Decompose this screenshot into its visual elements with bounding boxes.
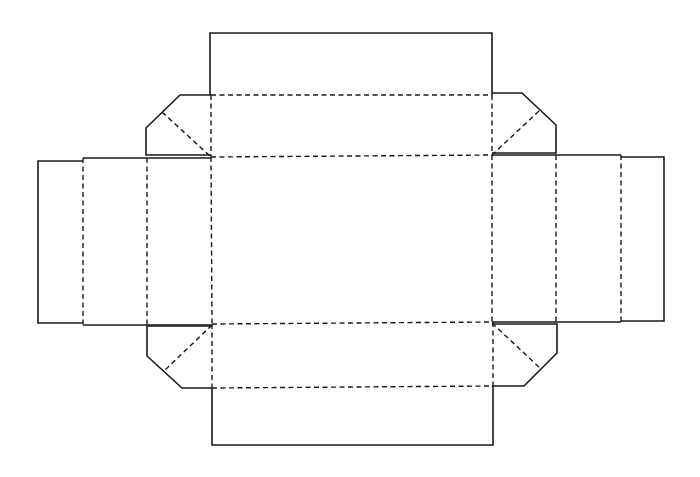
box-dieline-diagram [0,0,700,477]
base-top-fold [211,155,492,157]
bottom-flap-fold-line [212,386,493,388]
corner-diagonal-fold [162,112,211,157]
top-left-corner-flap [146,95,211,157]
bottom-tuck-flap [212,386,493,445]
corner-diagonal-fold [492,111,539,155]
bottom-side-panel [212,322,493,388]
left-end-flap [38,161,83,323]
corner-diagonal-fold [165,325,212,370]
dieline-canvas [0,0,700,477]
base-left-fold [211,157,212,324]
bottom-right-corner-flap [492,323,557,386]
right-side-panel [492,155,621,322]
bottom-left-corner-flap [147,325,212,388]
top-side-panel [211,95,492,157]
base-bottom-fold [212,322,492,324]
left-side-panel [83,158,211,325]
top-tuck-flap [210,33,492,95]
corner-diagonal-fold [492,323,541,369]
base-panel [211,155,492,324]
top-right-corner-flap [492,93,556,155]
right-end-flap [621,157,664,321]
